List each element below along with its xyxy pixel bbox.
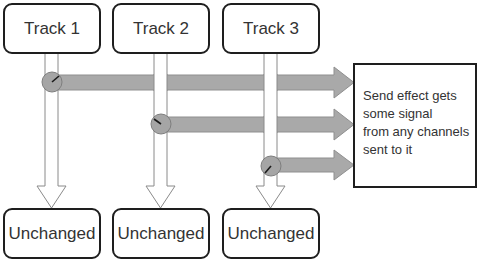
track-1-label: Track 1 — [24, 19, 80, 39]
send-effect-text-line-3: from any channels — [363, 123, 469, 141]
send-effect-text-line-1: Send effect gets — [363, 87, 469, 105]
track-1-send-arrow — [52, 67, 354, 98]
track-3-output-label: Unchanged — [228, 224, 315, 244]
track-2-box: Track 2 — [112, 3, 210, 54]
send-effect-box: Send effect gets some signal from any ch… — [353, 63, 477, 188]
track-3-label: Track 3 — [243, 19, 299, 39]
track-3-output-box: Unchanged — [222, 208, 320, 259]
send-effect-text-line-2: some signal — [363, 105, 469, 123]
track-1-output-box: Unchanged — [3, 208, 101, 259]
track-3-box: Track 3 — [222, 3, 320, 54]
track-3-send-arrow — [271, 150, 354, 180]
track-3-send-knob-icon[interactable] — [261, 156, 281, 176]
track-1-output-label: Unchanged — [9, 224, 96, 244]
track-2-label: Track 2 — [133, 19, 189, 39]
track-2-send-arrow — [161, 109, 354, 140]
track-1-send-knob-icon[interactable] — [42, 72, 62, 92]
track-2-send-knob-icon[interactable] — [151, 114, 171, 134]
track-2-output-label: Unchanged — [118, 224, 205, 244]
track-1-box: Track 1 — [3, 3, 101, 54]
track-2-output-box: Unchanged — [112, 208, 210, 259]
send-effect-text-line-4: sent to it — [363, 141, 469, 159]
send-effect-diagram: Track 1 Track 2 Track 3 Unchanged Unchan… — [0, 0, 479, 262]
